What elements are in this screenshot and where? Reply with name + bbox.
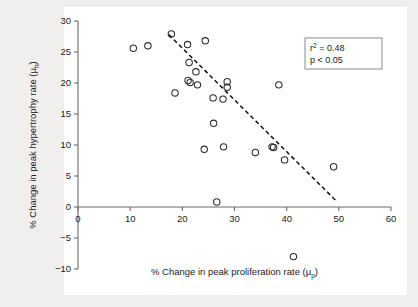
- x-tick-label: 60: [386, 213, 397, 224]
- y-tick-label: 10: [60, 139, 71, 150]
- y-axis-title: % Change in peak hypertrophy rate (μh): [27, 61, 40, 229]
- x-tick-label: 50: [334, 213, 345, 224]
- x-tick-label: 20: [177, 213, 188, 224]
- y-tick-label: 20: [60, 77, 71, 88]
- x-tick-label: 10: [125, 213, 136, 224]
- y-tick-label: 25: [60, 46, 71, 57]
- y-tick-label: 30: [60, 15, 71, 26]
- x-tick-label: 0: [75, 213, 80, 224]
- chart-canvas: −10−50510152025300102030405060r2 = 0.48p…: [0, 0, 418, 307]
- scatter-plot-figure: −10−50510152025300102030405060r2 = 0.48p…: [0, 0, 418, 307]
- y-tick-label: −5: [60, 232, 71, 243]
- y-tick-label: 0: [66, 201, 71, 212]
- x-tick-label: 30: [229, 213, 240, 224]
- y-tick-label: 15: [60, 108, 71, 119]
- p-value-text: p < 0.05: [310, 55, 343, 65]
- x-tick-label: 40: [281, 213, 292, 224]
- y-tick-label: 5: [66, 170, 71, 181]
- y-tick-label: −10: [55, 263, 71, 274]
